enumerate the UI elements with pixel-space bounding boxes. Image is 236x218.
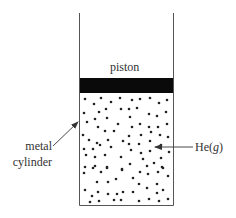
helium-particle	[100, 171, 103, 174]
cylinder-label: cylinder	[13, 155, 52, 169]
helium-particle	[122, 191, 125, 194]
helium-particle	[94, 165, 97, 168]
helium-particle	[168, 151, 171, 154]
helium-particle	[153, 162, 156, 165]
helium-particle	[92, 148, 95, 151]
helium-particle	[162, 189, 165, 192]
helium-particle	[94, 118, 97, 121]
helium-particle	[120, 156, 123, 159]
helium-particle	[92, 167, 95, 170]
helium-particle	[84, 166, 87, 169]
helium-particle	[86, 121, 89, 124]
helium-particle	[107, 181, 110, 184]
helium-particle	[142, 158, 145, 161]
helium-particle	[138, 183, 141, 186]
helium-particle	[105, 108, 108, 111]
helium-particle	[117, 123, 120, 126]
helium-particle	[84, 98, 87, 101]
helium-particle	[128, 143, 131, 146]
helium-label-close: )	[219, 140, 223, 154]
helium-particle	[158, 102, 161, 105]
helium-particle	[149, 140, 152, 143]
helium-particle	[110, 101, 113, 104]
helium-particle	[129, 116, 132, 119]
helium-particle	[106, 117, 109, 120]
piston	[80, 78, 173, 93]
helium-particle	[167, 198, 170, 201]
helium-particle	[156, 115, 159, 118]
helium-particle	[97, 126, 100, 129]
helium-particle	[83, 148, 86, 151]
helium-particle	[120, 108, 123, 111]
helium-particle	[148, 126, 151, 129]
helium-particle	[97, 191, 100, 194]
cylinder-pointer-arrow	[53, 122, 78, 146]
helium-particle	[150, 131, 153, 134]
helium-particle	[115, 178, 118, 181]
helium-particle	[167, 136, 170, 139]
helium-particle	[166, 123, 169, 126]
helium-particle	[131, 99, 134, 102]
helium-particle	[139, 171, 142, 174]
metal-label: metal	[25, 139, 52, 153]
helium-particle	[160, 157, 163, 160]
helium-particle	[140, 134, 143, 137]
helium-particle	[85, 154, 88, 157]
helium-particle	[119, 97, 122, 100]
cylinder-diagram	[0, 0, 236, 218]
helium-particle	[130, 149, 133, 152]
helium-particle	[138, 200, 141, 203]
helium-particle	[146, 165, 149, 168]
helium-particle	[147, 173, 150, 176]
helium-particle	[156, 192, 159, 195]
helium-particle	[96, 142, 99, 145]
helium-particle	[139, 98, 142, 101]
helium-particle	[104, 154, 107, 157]
helium-particle	[157, 171, 160, 174]
helium-particle	[139, 123, 142, 126]
helium-particle	[96, 181, 99, 184]
helium-particle	[122, 140, 125, 143]
helium-particle	[146, 187, 149, 190]
helium-particle	[166, 99, 169, 102]
helium-particle	[107, 139, 110, 142]
helium-particle	[91, 195, 94, 198]
helium-particle	[167, 175, 170, 178]
helium-particle	[106, 167, 109, 170]
helium-particle	[149, 97, 152, 100]
helium-particle	[83, 172, 86, 175]
helium-particle	[84, 189, 87, 192]
helium-particle	[99, 144, 102, 147]
helium-particle	[149, 150, 152, 153]
helium-particle	[156, 183, 159, 186]
helium-particle	[129, 163, 132, 166]
piston-label: piston	[110, 60, 139, 74]
helium-particle	[107, 193, 110, 196]
helium-particle	[128, 135, 131, 138]
helium-particle	[158, 200, 161, 203]
helium-particle	[98, 111, 101, 114]
diagram-canvas: piston metal cylinder He(g)	[0, 0, 236, 218]
helium-particle	[88, 139, 91, 142]
helium-particle	[98, 200, 101, 203]
helium-particle	[121, 169, 124, 172]
helium-particle	[140, 152, 143, 155]
helium-particle	[136, 107, 139, 110]
helium-particle	[159, 134, 162, 137]
helium-label-main: He(	[195, 140, 213, 154]
helium-particle	[165, 111, 168, 114]
helium-particle	[157, 126, 160, 129]
helium-particle	[113, 130, 116, 133]
helium-particle	[138, 143, 141, 146]
helium-particle	[148, 198, 151, 201]
helium-particle	[132, 191, 135, 194]
helium-particle	[132, 177, 135, 180]
helium-particle	[100, 97, 103, 100]
helium-particle	[113, 199, 116, 202]
helium-particle	[104, 130, 107, 133]
helium-particle	[82, 134, 85, 137]
helium-particles	[82, 97, 171, 204]
helium-particle	[128, 108, 131, 111]
helium-particle	[160, 144, 163, 147]
helium-particle	[89, 201, 92, 204]
